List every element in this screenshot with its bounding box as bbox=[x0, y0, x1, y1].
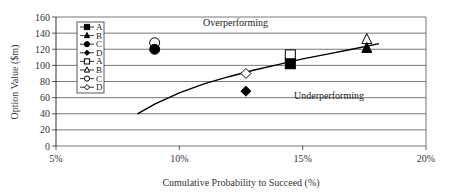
open-circle-marker bbox=[84, 76, 89, 81]
x-axis-label: Cumulative Probability to Succeed (%) bbox=[162, 177, 319, 189]
legend: ABCDABCD bbox=[77, 22, 104, 93]
x-tick-label: 10% bbox=[170, 153, 188, 164]
x-tick-label: 15% bbox=[293, 153, 311, 164]
x-tick-label: 20% bbox=[417, 153, 435, 164]
threshold-curve bbox=[137, 44, 379, 114]
y-tick-label: 20 bbox=[40, 124, 50, 135]
filled-diamond-marker bbox=[241, 86, 251, 96]
data-points bbox=[150, 34, 372, 97]
y-tick-label: 160 bbox=[35, 12, 50, 23]
y-tick-label: 80 bbox=[40, 76, 50, 87]
y-tick-label: 40 bbox=[40, 108, 50, 119]
legend-label: D bbox=[96, 82, 103, 92]
filled-square-marker bbox=[285, 59, 295, 69]
x-axis-ticks: 5%10%15%20% bbox=[49, 146, 435, 164]
y-tick-label: 60 bbox=[40, 92, 50, 103]
y-tick-label: 100 bbox=[35, 60, 50, 71]
open-diamond-marker bbox=[241, 68, 251, 78]
y-tick-label: 120 bbox=[35, 44, 50, 55]
y-tick-label: 140 bbox=[35, 28, 50, 39]
y-tick-label: 0 bbox=[45, 141, 50, 152]
annotation-overperforming: Overperforming bbox=[203, 17, 268, 28]
chart: 020406080100120140160 5%10%15%20% Overpe… bbox=[0, 0, 451, 192]
gridlines bbox=[56, 17, 426, 146]
open-square-marker bbox=[84, 59, 89, 64]
y-axis-ticks: 020406080100120140160 bbox=[35, 12, 56, 152]
y-axis-label: Option Value ($m) bbox=[9, 45, 21, 120]
x-tick-label: 5% bbox=[49, 153, 62, 164]
filled-circle-marker bbox=[84, 42, 89, 47]
annotation-underperforming: Underperforming bbox=[294, 90, 364, 101]
filled-circle-marker bbox=[150, 44, 160, 54]
filled-square-marker bbox=[84, 24, 89, 29]
